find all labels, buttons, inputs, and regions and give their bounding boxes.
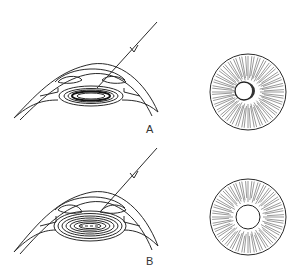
panel-b-iris [210,179,286,255]
panel-a-lens [59,86,123,106]
panel-a-light-ray [97,22,157,88]
panel-a-label: A [146,123,153,135]
panel-a-iris [210,54,286,130]
panel-b-label: B [146,255,153,267]
panel-b-lens [54,211,126,241]
panel-b-eye-section [14,192,158,254]
diagram-canvas [0,0,303,273]
